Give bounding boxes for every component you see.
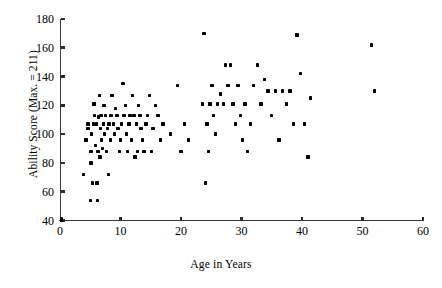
data-point (370, 43, 373, 46)
data-point (243, 102, 246, 105)
data-point (102, 122, 105, 125)
data-point (98, 94, 101, 97)
y-tick-80 (61, 162, 65, 165)
data-point (299, 72, 302, 75)
x-tick-label-50: 50 (343, 225, 383, 237)
data-point (95, 181, 98, 184)
data-point (236, 84, 239, 87)
data-point (84, 138, 87, 141)
data-point (259, 102, 262, 105)
data-point (156, 114, 159, 117)
data-point (204, 181, 207, 184)
data-point (126, 150, 129, 153)
scatter-plot-figure: Ability Score (Max. = 211) Age in Years … (0, 0, 442, 288)
data-point (120, 122, 123, 125)
data-point (127, 122, 130, 125)
data-point (208, 102, 211, 105)
data-point (270, 114, 273, 117)
data-point (142, 150, 145, 153)
y-tick-label-140: 140 (14, 71, 54, 83)
data-point (99, 114, 102, 117)
y-tick-160 (61, 46, 65, 49)
data-point (112, 122, 115, 125)
y-tick-label-180: 180 (14, 13, 54, 25)
data-point (110, 94, 113, 97)
data-point (161, 122, 164, 125)
x-tick-40 (301, 217, 304, 221)
data-point (292, 122, 295, 125)
data-point (101, 147, 104, 150)
data-point (263, 78, 266, 81)
data-point (109, 114, 112, 117)
data-point (107, 173, 110, 176)
data-point (141, 138, 144, 141)
data-point (169, 132, 172, 135)
data-point (113, 132, 116, 135)
x-tick-label-0: 0 (40, 225, 80, 237)
x-tick-label-10: 10 (101, 225, 141, 237)
data-point (102, 104, 105, 107)
data-point (133, 155, 136, 158)
data-point (205, 122, 208, 125)
y-tick-120 (61, 104, 65, 107)
data-point (277, 138, 280, 141)
data-point (226, 84, 229, 87)
data-point (119, 138, 122, 141)
data-point (106, 127, 109, 130)
data-point (139, 127, 142, 130)
data-point (201, 102, 204, 105)
data-point (96, 150, 99, 153)
data-point (154, 104, 157, 107)
x-tick-label-20: 20 (161, 225, 201, 237)
data-point (100, 138, 103, 141)
data-point (132, 114, 135, 117)
data-point (176, 84, 179, 87)
data-point (222, 102, 225, 105)
data-point (202, 32, 205, 35)
data-point (98, 155, 101, 158)
data-point (309, 96, 312, 99)
x-tick-30 (240, 217, 243, 221)
y-tick-label-120: 120 (14, 99, 54, 111)
data-point (121, 82, 124, 85)
data-point (138, 114, 141, 117)
data-point (90, 132, 93, 135)
x-tick-label-30: 30 (222, 225, 262, 237)
y-tick-100 (61, 133, 65, 136)
data-point (146, 114, 149, 117)
y-tick-140 (61, 75, 65, 78)
data-point (210, 84, 213, 87)
data-point (239, 114, 242, 117)
data-point (89, 199, 92, 202)
data-point (256, 63, 259, 66)
data-point (92, 102, 95, 105)
data-point (116, 127, 119, 130)
data-point (288, 89, 291, 92)
data-point (93, 114, 96, 117)
data-point (281, 89, 284, 92)
data-point (151, 127, 154, 130)
y-tick-180 (61, 18, 65, 21)
data-point (252, 84, 255, 87)
data-point (303, 122, 306, 125)
data-point (124, 104, 127, 107)
x-tick-label-60: 60 (403, 225, 442, 237)
data-point (187, 138, 190, 141)
data-point (229, 63, 232, 66)
data-point (99, 127, 102, 130)
x-tick-20 (180, 217, 183, 221)
data-point (144, 122, 147, 125)
data-point (95, 122, 98, 125)
data-point (246, 150, 249, 153)
y-tick-label-160: 160 (14, 42, 54, 54)
data-point (249, 122, 252, 125)
data-point (231, 102, 234, 105)
data-point (91, 181, 94, 184)
data-point (285, 102, 288, 105)
data-point (274, 89, 277, 92)
data-point (60, 219, 63, 222)
data-point (241, 138, 244, 141)
y-tick-label-100: 100 (14, 128, 54, 140)
data-point (86, 122, 89, 125)
data-point (148, 94, 151, 97)
